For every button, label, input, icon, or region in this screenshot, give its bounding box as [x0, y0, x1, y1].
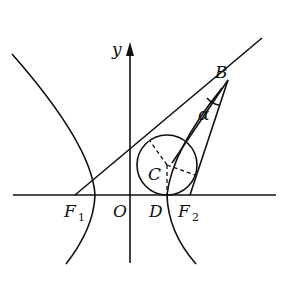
hyperbola-diagram: y B α C F 1 O D F 2	[0, 0, 295, 291]
segment-b-f2	[190, 80, 228, 195]
y-axis-arrow-icon	[126, 42, 134, 56]
hyperbola-left-branch	[12, 54, 95, 264]
point-f2-subscript: 2	[192, 211, 199, 224]
angle-alpha-label: α	[198, 104, 210, 124]
point-f1-label: F	[63, 201, 77, 221]
point-f1-subscript: 1	[78, 211, 85, 224]
line-f1-b	[75, 38, 262, 195]
y-axis-label: y	[111, 39, 122, 59]
point-f2-label: F	[177, 201, 191, 221]
point-b-label: B	[214, 62, 228, 82]
radius-dashed-1	[150, 141, 167, 165]
point-c-label: C	[148, 164, 161, 184]
origin-label: O	[113, 201, 127, 221]
point-d-label: D	[148, 201, 163, 221]
